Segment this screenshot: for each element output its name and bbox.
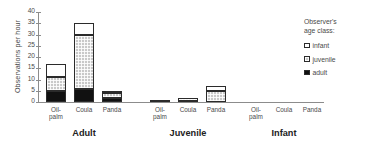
bar-segment-juvenile [74, 35, 94, 89]
bar-segment-juvenile [46, 77, 66, 91]
x-tick-label: Panda [95, 106, 129, 113]
group-label: Infant [229, 128, 339, 138]
bar-segment-adult [102, 98, 122, 103]
stacked-bar [46, 64, 66, 102]
y-tick-mark [36, 68, 41, 69]
bar-segment-juvenile [178, 98, 198, 101]
y-tick: 15 [38, 68, 43, 69]
stacked-bar [74, 23, 94, 102]
y-tick-mark [36, 35, 41, 36]
y-tick: 30 [38, 35, 43, 36]
stacked-bar [274, 101, 294, 102]
stacked-bar [206, 86, 226, 102]
y-tick-label: 10 [28, 75, 35, 82]
legend-title: Observer's age class: [304, 18, 372, 35]
legend-label: infant [313, 42, 330, 49]
legend-item: juvenile [304, 56, 372, 63]
chart-figure: Observations per hour 0510152025303540 O… [0, 0, 372, 152]
legend-label: adult [313, 69, 328, 76]
bar-segment-infant [206, 86, 226, 91]
y-tick-label: 25 [28, 41, 35, 48]
bar-segment-juvenile [150, 100, 170, 102]
y-tick: 20 [38, 57, 43, 58]
y-tick-mark [36, 102, 41, 103]
legend-swatch-infant [304, 43, 310, 49]
y-tick-label: 5 [31, 86, 35, 93]
stacked-bar [102, 91, 122, 102]
y-tick-label: 0 [31, 97, 35, 104]
stacked-bar [150, 100, 170, 102]
y-tick: 5 [38, 91, 43, 92]
plot-area: 0510152025303540 Oil-palmCoulaPandaOil-p… [38, 12, 324, 102]
y-tick-label: 35 [28, 18, 35, 25]
y-tick-mark [36, 23, 41, 24]
group-label: Juvenile [133, 128, 243, 138]
bar-segment-adult [74, 89, 94, 103]
x-tick-label: Panda [199, 106, 233, 113]
legend-swatch-adult [304, 70, 310, 76]
y-tick-mark [36, 57, 41, 58]
y-tick-mark [36, 91, 41, 92]
stacked-bar [302, 101, 322, 102]
y-axis-title: Observations per hour [13, 7, 22, 107]
y-tick: 0 [38, 102, 43, 103]
y-tick: 35 [38, 23, 43, 24]
stacked-bar [246, 101, 266, 102]
y-tick: 25 [38, 46, 43, 47]
bar-segment-adult [46, 91, 66, 102]
y-tick: 10 [38, 80, 43, 81]
legend-item: infant [304, 42, 372, 49]
bar-segment-infant [102, 91, 122, 93]
x-axis-line [38, 102, 324, 103]
legend-item: adult [304, 69, 372, 76]
legend-label: juvenile [313, 56, 336, 63]
y-tick-label: 20 [28, 52, 35, 59]
legend-items: infantjuvenileadult [304, 42, 372, 76]
stacked-bar [178, 98, 198, 103]
x-tick-label: Panda [295, 106, 329, 113]
y-tick-mark [36, 12, 41, 13]
bar-segment-infant [74, 23, 94, 34]
bar-segment-juvenile [206, 91, 226, 102]
bar-segment-infant [46, 64, 66, 78]
y-tick-mark [36, 80, 41, 81]
y-tick-label: 30 [28, 30, 35, 37]
y-tick-mark [36, 46, 41, 47]
legend-swatch-juvenile [304, 56, 310, 62]
y-tick: 40 [38, 12, 43, 13]
group-label: Adult [29, 128, 139, 138]
y-tick-label: 40 [28, 7, 35, 14]
y-tick-label: 15 [28, 63, 35, 70]
chart-legend: Observer's age class: infantjuvenileadul… [304, 18, 372, 83]
bar-segment-juvenile [102, 93, 122, 98]
